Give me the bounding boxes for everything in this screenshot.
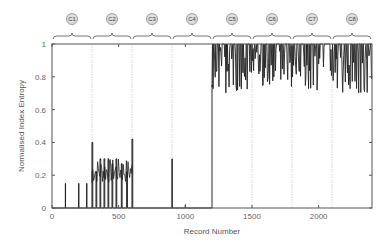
x-tick-label: 1000 bbox=[176, 212, 194, 221]
y-tick-label: 0.2 bbox=[35, 171, 47, 180]
x-tick-label: 1500 bbox=[243, 212, 261, 221]
y-tick-label: 0.8 bbox=[35, 73, 47, 82]
entropy-chart: C1C2C3C4C5C6C7C8 00.20.40.60.81 05001000… bbox=[0, 0, 390, 248]
y-tick-label: 0 bbox=[42, 204, 47, 213]
y-axis-ticks: 00.20.40.60.81 bbox=[35, 40, 372, 213]
segment-label: C5 bbox=[228, 16, 236, 22]
y-axis-label: Normalised Index Entropy bbox=[17, 80, 26, 172]
segment-label: C8 bbox=[348, 16, 356, 22]
y-tick-label: 0.4 bbox=[35, 138, 47, 147]
segment-label: C4 bbox=[188, 16, 196, 22]
x-tick-label: 2000 bbox=[310, 212, 328, 221]
segment-labels: C1C2C3C4C5C6C7C8 bbox=[67, 14, 358, 25]
segment-label: C3 bbox=[148, 16, 156, 22]
x-tick-label: 500 bbox=[112, 212, 126, 221]
segment-label: C6 bbox=[268, 16, 276, 22]
y-tick-label: 1 bbox=[42, 40, 47, 49]
segment-braces bbox=[53, 33, 371, 39]
x-tick-label: 0 bbox=[50, 212, 55, 221]
y-tick-label: 0.6 bbox=[35, 106, 47, 115]
segment-label: C2 bbox=[108, 16, 116, 22]
x-axis-label: Record Number bbox=[184, 227, 241, 236]
segment-label: C7 bbox=[308, 16, 316, 22]
segment-label: C1 bbox=[68, 16, 76, 22]
data-series bbox=[52, 44, 372, 208]
